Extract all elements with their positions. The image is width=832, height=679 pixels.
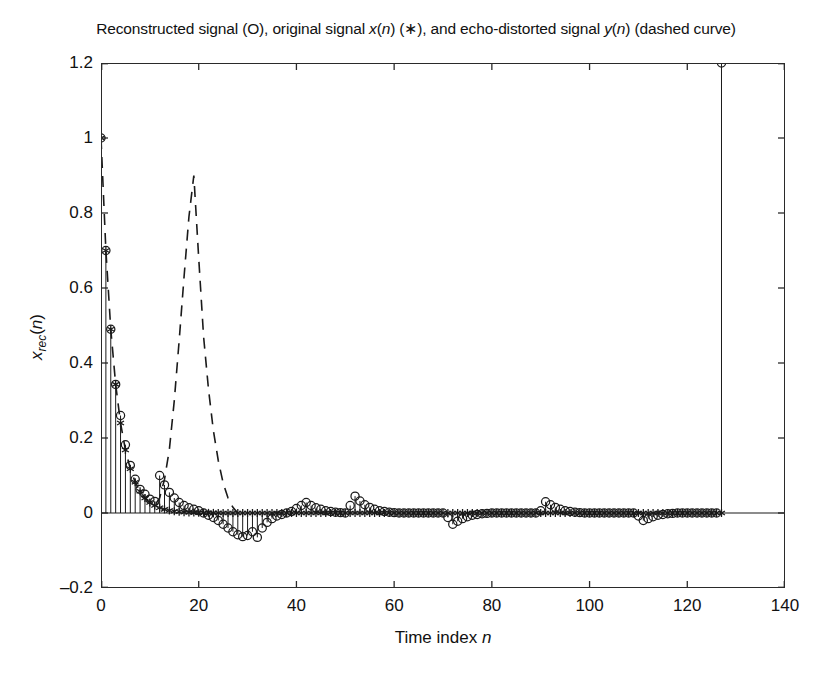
x-axis-title: Time index n — [101, 628, 785, 648]
title-var-y: y — [604, 20, 612, 37]
chart-title: Reconstructed signal (O), original signa… — [0, 20, 832, 38]
x-axis-tick-labels: 020406080100120140 — [101, 596, 785, 620]
y-axis-title-main: x — [27, 352, 46, 361]
x-tick-label: 80 — [482, 596, 501, 616]
title-segment-1: Reconstructed signal (O), original signa… — [96, 20, 369, 37]
y-tick-label: 1 — [84, 128, 93, 148]
x-tick-label: 20 — [189, 596, 208, 616]
x-axis-title-prefix: Time index — [395, 628, 482, 647]
y-tick-label: 0.4 — [69, 353, 93, 373]
y-axis-title: xrec(n) — [27, 267, 49, 407]
x-tick-label: 0 — [96, 596, 105, 616]
title-var-n-1: n — [382, 20, 390, 37]
plot-area — [101, 63, 785, 588]
x-axis-title-var: n — [482, 628, 491, 647]
plot-frame-border — [101, 63, 785, 588]
x-tick-label: 60 — [385, 596, 404, 616]
title-segment-3: ) (∗), and echo-distorted signal — [390, 20, 604, 37]
title-segment-5: ) (dashed curve) — [625, 20, 735, 37]
y-tick-label: 0.2 — [69, 428, 93, 448]
title-var-x: x — [369, 20, 377, 37]
x-tick-label: 140 — [771, 596, 799, 616]
y-tick-label: 0 — [84, 503, 93, 523]
y-axis-title-var: n — [27, 320, 46, 329]
x-tick-label: 120 — [673, 596, 701, 616]
x-tick-label: 100 — [575, 596, 603, 616]
title-var-n-2: n — [617, 20, 625, 37]
y-tick-label: 1.2 — [69, 53, 93, 73]
y-tick-label: 0.8 — [69, 203, 93, 223]
y-axis-title-subscript: rec — [35, 335, 49, 352]
x-tick-label: 40 — [287, 596, 306, 616]
y-tick-label: –0.2 — [60, 578, 93, 598]
y-tick-label: 0.6 — [69, 278, 93, 298]
y-axis-title-wrapper: xrec(n) — [27, 267, 51, 407]
y-axis-title-paren-open: ( — [27, 329, 46, 335]
figure-canvas: Reconstructed signal (O), original signa… — [0, 0, 832, 679]
y-axis-title-paren-close: ) — [27, 314, 46, 320]
